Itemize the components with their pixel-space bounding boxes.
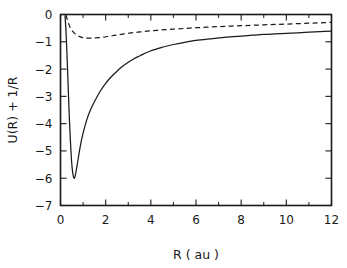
y-tick-label: 0 bbox=[45, 8, 53, 22]
x-tick-label: 6 bbox=[192, 213, 200, 227]
x-axis-tick-labels: 024681012 bbox=[57, 213, 339, 227]
y-tick-label: −4 bbox=[35, 117, 53, 131]
x-tick-label: 4 bbox=[147, 213, 155, 227]
y-axis-title: U(R) + 1/R bbox=[5, 76, 20, 143]
data-series-group bbox=[65, 15, 331, 178]
y-tick-label: −5 bbox=[35, 144, 53, 158]
y-axis-tick-labels: 0−1−2−3−4−5−6−7 bbox=[35, 8, 53, 213]
y-tick-label: −3 bbox=[35, 90, 53, 104]
potential-energy-plot: 024681012 0−1−2−3−4−5−6−7 R ( au ) U(R) … bbox=[0, 0, 347, 268]
series-solid-curve bbox=[65, 16, 331, 178]
x-axis-ticks bbox=[61, 15, 332, 206]
x-tick-label: 0 bbox=[57, 213, 65, 227]
y-tick-label: −6 bbox=[35, 172, 53, 186]
plot-frame bbox=[61, 15, 332, 206]
x-tick-label: 12 bbox=[324, 213, 339, 227]
x-tick-label: 8 bbox=[237, 213, 245, 227]
y-tick-label: −7 bbox=[35, 199, 53, 213]
x-tick-label: 10 bbox=[279, 213, 294, 227]
y-tick-label: −2 bbox=[35, 63, 53, 77]
chart-figure: 024681012 0−1−2−3−4−5−6−7 R ( au ) U(R) … bbox=[0, 0, 347, 268]
y-tick-label: −1 bbox=[35, 35, 53, 49]
y-axis-ticks bbox=[61, 15, 332, 206]
x-axis-title: R ( au ) bbox=[173, 247, 219, 262]
x-tick-label: 2 bbox=[102, 213, 110, 227]
